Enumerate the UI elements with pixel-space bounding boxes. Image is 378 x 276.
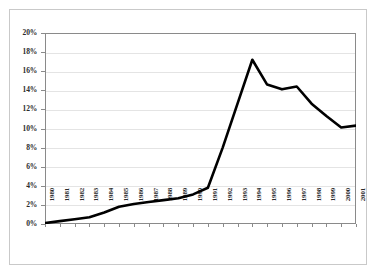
x-axis-tick-mark [60, 224, 61, 227]
x-axis-tick-mark [75, 224, 76, 227]
x-axis-tick-mark [312, 224, 313, 227]
x-axis-tick-mark [178, 224, 179, 227]
x-axis-tick-mark [326, 224, 327, 227]
x-axis-tick-mark [297, 224, 298, 227]
x-axis-tick-mark [267, 224, 268, 227]
x-axis-tick-mark [163, 224, 164, 227]
x-axis-tick-mark [208, 224, 209, 227]
y-axis-tick-label: 16% [3, 67, 37, 75]
y-axis-tick-label: 6% [3, 163, 37, 171]
y-axis-tick-label: 8% [3, 144, 37, 152]
y-axis-tick-label: 18% [3, 48, 37, 56]
y-axis-tick-label: 4% [3, 182, 37, 190]
y-axis-tick-label: 14% [3, 86, 37, 94]
x-axis-tick-label: 2001 [359, 188, 367, 228]
x-axis-tick-mark [238, 224, 239, 227]
x-axis-tick-mark [356, 224, 357, 227]
y-axis-tick-label: 10% [3, 125, 37, 133]
x-axis-tick-mark [134, 224, 135, 227]
x-axis-tick-mark [104, 224, 105, 227]
x-axis-tick-mark [252, 224, 253, 227]
y-axis-tick-label: 2% [3, 201, 37, 209]
data-series-line [45, 33, 356, 224]
y-axis-tick-label: 12% [3, 105, 37, 113]
series-polyline [45, 60, 356, 223]
x-axis-tick-mark [149, 224, 150, 227]
y-axis-tick-label: 20% [3, 29, 37, 37]
chart-plot-wrapper: 0%2%4%6%8%10%12%14%16%18%20% 19801981198… [0, 0, 378, 276]
x-axis-tick-mark [223, 224, 224, 227]
x-axis-tick-mark [193, 224, 194, 227]
x-axis-tick-mark [119, 224, 120, 227]
y-axis-tick-label: 0% [3, 220, 37, 228]
x-axis-tick-mark [45, 224, 46, 227]
x-axis-tick-mark [282, 224, 283, 227]
x-axis-tick-mark [341, 224, 342, 227]
x-axis-tick-mark [89, 224, 90, 227]
